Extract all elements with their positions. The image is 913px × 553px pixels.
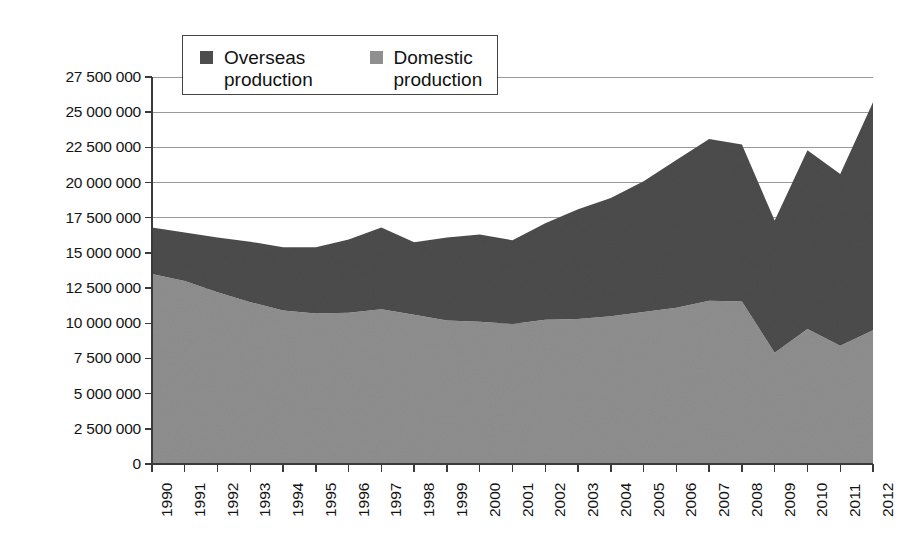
x-axis-tick-label: 2008: [748, 483, 766, 517]
x-axis-tick-label: 1990: [158, 483, 176, 517]
y-axis-tick-label: 27 500 000: [65, 68, 141, 86]
x-axis-tick-label: 2002: [551, 483, 569, 517]
x-axis-tick-label: 2009: [781, 483, 799, 517]
legend-item[interactable]: Domestic production: [370, 47, 498, 91]
chart-legend: Overseas productionDomestic production: [182, 35, 498, 95]
x-axis-tick-label: 2012: [879, 483, 897, 517]
x-axis-tick-label: 1996: [355, 483, 373, 517]
y-axis-tick-label: 0: [133, 455, 141, 473]
x-axis-tick-label: 1995: [322, 483, 340, 517]
x-axis-tick-label: 1998: [420, 483, 438, 517]
x-axis-tick-label: 2003: [584, 483, 602, 517]
y-axis-tick-label: 22 500 000: [65, 138, 141, 156]
x-axis-tick-label: 1994: [289, 483, 307, 517]
legend-swatch-icon: [370, 51, 383, 64]
legend-swatch-icon: [200, 51, 213, 64]
legend-label: Overseas production: [224, 47, 328, 91]
y-axis-tick-label: 20 000 000: [65, 174, 141, 192]
y-axis-tick-label: 25 000 000: [65, 103, 141, 121]
stacked-area-chart: 02 500 0005 000 0007 500 00010 000 00012…: [0, 0, 913, 553]
x-axis-tick-label: 2007: [715, 483, 733, 517]
y-axis-tick-label: 17 500 000: [65, 209, 141, 227]
y-axis-tick-label: 10 000 000: [65, 314, 141, 332]
x-axis-tick-label: 2006: [682, 483, 700, 517]
x-axis-tick-label: 2005: [650, 483, 668, 517]
x-axis-tick-label: 2011: [846, 484, 864, 517]
x-axis-tick-label: 1991: [191, 483, 209, 517]
y-axis-tick-label: 15 000 000: [65, 244, 141, 262]
legend-item[interactable]: Overseas production: [200, 47, 328, 91]
y-axis-tick-label: 2 500 000: [74, 420, 141, 438]
y-axis-tick-label: 12 500 000: [65, 279, 141, 297]
y-axis-ticks: [145, 77, 152, 464]
x-axis-tick-label: 1997: [387, 483, 405, 517]
x-axis-tick-label: 2000: [486, 483, 504, 517]
x-axis-tick-label: 1992: [224, 483, 242, 517]
x-axis-tick-label: 1993: [256, 483, 274, 517]
x-axis-tick-label: 1999: [453, 483, 471, 517]
y-axis-tick-label: 5 000 000: [74, 385, 141, 403]
legend-label: Domestic production: [394, 47, 498, 91]
x-axis-tick-label: 2001: [519, 483, 537, 517]
x-axis-ticks: [152, 464, 873, 472]
x-axis-tick-label: 2004: [617, 483, 635, 517]
x-axis-tick-label: 2010: [813, 483, 831, 517]
y-axis-tick-label: 7 500 000: [74, 349, 141, 367]
